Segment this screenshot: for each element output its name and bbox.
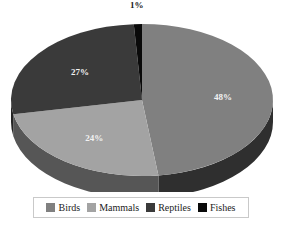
pie-chart-figure: 48%24%27%1% [0,0,285,192]
legend-item-label: Mammals [99,203,139,213]
legend-item[interactable]: Reptiles [146,203,191,213]
legend-swatch-icon [87,203,96,212]
legend-swatch-icon [146,203,155,212]
legend-item-label: Reptiles [158,203,191,213]
chart-legend: BirdsMammalsReptilesFishes [33,197,249,218]
pie-chart-svg: 48%24%27%1% [0,0,285,192]
legend-item[interactable]: Fishes [198,203,236,213]
pie-chart-page: 48%24%27%1% BirdsMammalsReptilesFishes [0,0,285,235]
pie-value-label-mammals: 24% [85,133,103,143]
legend-swatch-icon [198,203,207,212]
legend-item[interactable]: Mammals [87,203,139,213]
legend-item-label: Birds [58,203,80,213]
pie-value-label-reptiles: 27% [71,67,89,77]
legend-swatch-icon [46,203,55,212]
pie-3d-top-slices [11,24,273,176]
legend-item[interactable]: Birds [46,203,80,213]
pie-value-label-birds: 48% [214,92,232,102]
pie-value-label-fishes: 1% [130,0,144,10]
legend-item-label: Fishes [210,203,236,213]
